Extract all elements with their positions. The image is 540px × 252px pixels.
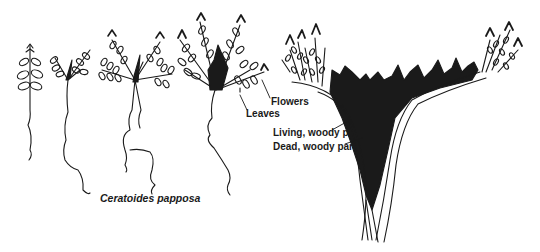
plant-development-illustration xyxy=(0,0,540,252)
label-flowers: Flowers xyxy=(271,96,309,107)
label-living-woody-parts: Living, woody parts xyxy=(273,127,367,138)
seedling-stage-2 xyxy=(49,50,90,194)
young-adult-stage xyxy=(177,13,268,195)
label-dead-woody-parts: Dead, woody parts xyxy=(273,141,362,152)
species-caption: Ceratoides papposa xyxy=(100,192,200,204)
label-leaves: Leaves xyxy=(246,108,280,119)
juvenile-stage xyxy=(98,30,175,194)
seedling-stage-1 xyxy=(16,44,44,160)
